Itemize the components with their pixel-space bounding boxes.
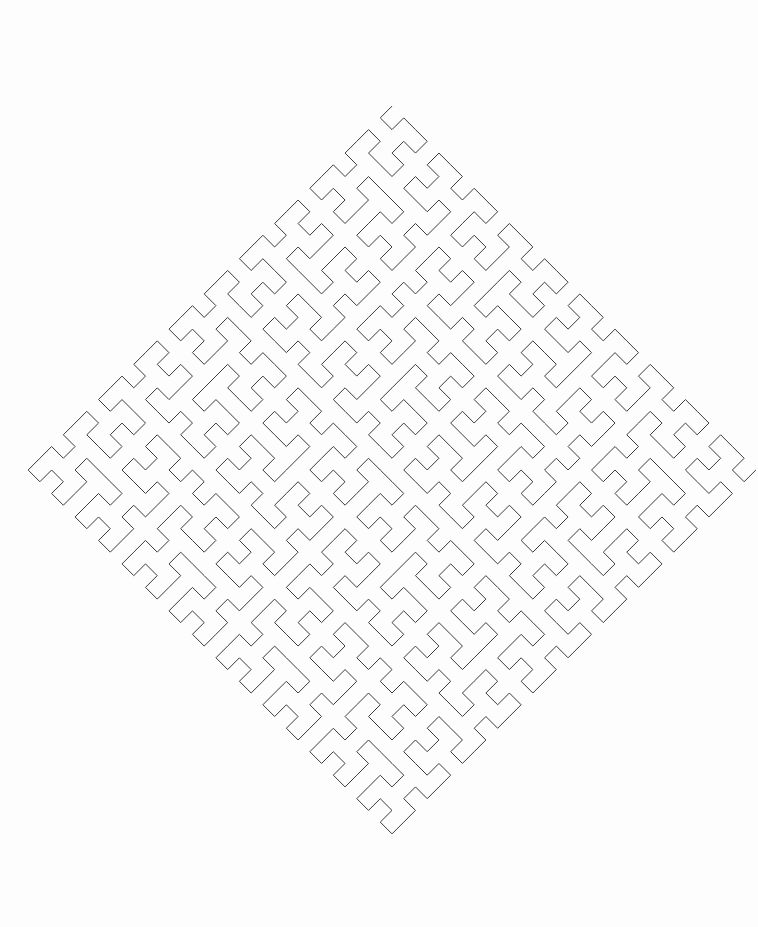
meander-curve-svg [0,0,758,927]
figure-canvas [0,0,758,927]
